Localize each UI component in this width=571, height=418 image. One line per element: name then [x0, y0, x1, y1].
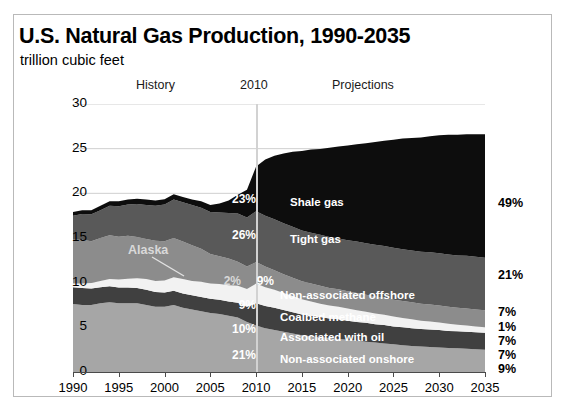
- x-tick-label: 2025: [370, 380, 416, 395]
- divider-2010: [256, 104, 258, 372]
- stacked-area-series: [73, 104, 485, 372]
- history-region-label: History: [136, 78, 175, 92]
- x-axis-line: [73, 372, 485, 373]
- projections-region-label: Projections: [332, 78, 394, 92]
- alaska-annotation: Alaska: [128, 243, 168, 257]
- x-tick-mark: [393, 372, 394, 377]
- x-tick-mark: [73, 372, 74, 377]
- x-tick-label: 2015: [279, 380, 325, 395]
- x-tick-mark: [439, 372, 440, 377]
- share-label-2035: 7%: [498, 305, 516, 319]
- x-tick-label: 2000: [142, 380, 188, 395]
- y-tick-label: 5: [47, 319, 87, 333]
- y-tick-label: 25: [47, 141, 87, 155]
- share-label-2010: 21%: [222, 348, 256, 362]
- share-label-2035: 1%: [498, 320, 516, 334]
- x-tick-mark: [302, 372, 303, 377]
- x-tick-mark: [348, 372, 349, 377]
- chart-subtitle: trillion cubic feet: [20, 52, 124, 68]
- series-label: Non-associated offshore: [280, 289, 415, 301]
- chart-title: U.S. Natural Gas Production, 1990-2035: [19, 24, 410, 49]
- share-label-2035: 49%: [498, 196, 523, 210]
- share-label-2010: 23%: [222, 192, 256, 206]
- x-tick-label: 2020: [325, 380, 371, 395]
- x-tick-label: 1990: [50, 380, 96, 395]
- share-label-2035: 21%: [498, 268, 523, 282]
- x-tick-mark: [256, 372, 257, 377]
- series-label: Associated with oil: [280, 331, 384, 343]
- plot-area: [73, 104, 485, 372]
- share-label-2035: 7%: [498, 348, 516, 362]
- series-label: Non-associated onshore: [280, 353, 414, 365]
- x-tick-mark: [210, 372, 211, 377]
- y-tick-label: 0: [47, 364, 87, 378]
- share-label-2010: 9%: [222, 298, 256, 312]
- share-label-2010: 26%: [222, 228, 256, 242]
- series-label: Tight gas: [290, 233, 341, 245]
- share-label-2010: 2%: [207, 274, 241, 288]
- share-label-2035: 7%: [498, 334, 516, 348]
- year-marker-label: 2010: [240, 78, 268, 92]
- x-tick-mark: [485, 372, 486, 377]
- x-tick-label: 2005: [187, 380, 233, 395]
- x-tick-mark: [119, 372, 120, 377]
- x-tick-label: 2035: [462, 380, 508, 395]
- share-label-2035: 9%: [498, 362, 516, 376]
- y-tick-label: 15: [47, 230, 87, 244]
- x-tick-label: 1995: [96, 380, 142, 395]
- y-tick-label: 30: [47, 96, 87, 110]
- y-tick-label: 20: [47, 185, 87, 199]
- series-label: Shale gas: [290, 196, 344, 208]
- y-tick-label: 10: [47, 275, 87, 289]
- share-label-2010: 9%: [240, 274, 274, 288]
- x-tick-label: 2010: [233, 380, 279, 395]
- x-tick-label: 2030: [416, 380, 462, 395]
- x-tick-mark: [165, 372, 166, 377]
- share-label-2010: 10%: [222, 322, 256, 336]
- series-label: Coalbed methane: [280, 311, 376, 323]
